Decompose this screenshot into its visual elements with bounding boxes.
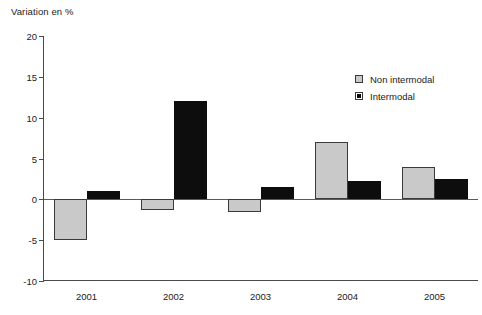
y-axis-tick-mark	[39, 240, 44, 241]
bar-chart: Variation en % 20151050-5-10 20012002200…	[0, 0, 482, 315]
x-axis-label-2003: 2003	[250, 291, 271, 302]
y-axis-tick-mark	[39, 199, 44, 200]
bar-2003-non-intermodal	[228, 199, 261, 212]
legend-swatch-icon	[355, 75, 363, 83]
bar-2004-intermodal	[348, 181, 381, 200]
legend-swatch-icon	[355, 92, 363, 100]
y-axis-tick-label: 20	[26, 31, 37, 42]
x-axis-label-2005: 2005	[424, 291, 445, 302]
bar-2001-non-intermodal	[54, 199, 87, 240]
y-axis-tick-label: 5	[32, 153, 37, 164]
y-axis-tick-label: -10	[23, 276, 37, 287]
y-axis-tick-label: 10	[26, 112, 37, 123]
y-axis-tick-label: 0	[32, 194, 37, 205]
bar-2003-intermodal	[261, 187, 294, 199]
bar-2004-non-intermodal	[315, 142, 348, 199]
legend-item-non-intermodal: Non intermodal	[355, 72, 434, 86]
bar-2005-non-intermodal	[402, 167, 435, 200]
y-axis-tick-mark	[39, 77, 44, 78]
y-axis-tick-mark	[39, 159, 44, 160]
bar-2002-non-intermodal	[141, 199, 174, 210]
x-axis-label-2002: 2002	[163, 291, 184, 302]
legend-item-label: Non intermodal	[370, 74, 434, 85]
bar-2001-intermodal	[87, 191, 120, 199]
bar-2005-intermodal	[435, 179, 468, 199]
legend-item-intermodal: Intermodal	[355, 89, 434, 103]
chart-axis-title: Variation en %	[11, 6, 73, 17]
y-axis-tick-label: 15	[26, 71, 37, 82]
y-axis-tick-label: -5	[29, 235, 37, 246]
y-axis-tick-mark	[39, 36, 44, 37]
y-axis-tick-mark	[39, 281, 44, 282]
y-axis-tick-mark	[39, 118, 44, 119]
legend-item-label: Intermodal	[370, 91, 415, 102]
x-axis-bottom-line	[43, 280, 478, 281]
x-axis-label-2004: 2004	[337, 291, 358, 302]
bar-2002-intermodal	[174, 101, 207, 199]
chart-legend: Non intermodalIntermodal	[355, 72, 434, 106]
x-axis-label-2001: 2001	[76, 291, 97, 302]
